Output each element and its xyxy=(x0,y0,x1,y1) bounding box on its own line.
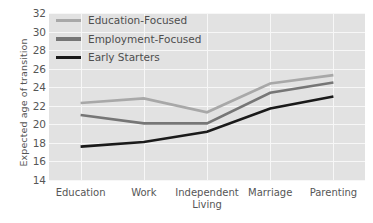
y-axis-tick: 22 xyxy=(12,101,46,111)
legend-label: Education-Focused xyxy=(88,15,187,26)
legend-color-swatch xyxy=(56,19,81,22)
y-axis-tick: 32 xyxy=(12,8,46,18)
legend-item[interactable]: Early Starters xyxy=(56,51,201,64)
x-axis-tick: Education xyxy=(56,187,106,199)
series-line xyxy=(81,75,334,112)
legend-item[interactable]: Employment-Focused xyxy=(56,33,201,46)
x-axis-tick: Work xyxy=(131,187,156,199)
legend-color-swatch xyxy=(56,56,81,59)
y-axis-tick: 24 xyxy=(12,82,46,92)
series-line xyxy=(81,97,334,147)
y-axis-tick: 16 xyxy=(12,156,46,166)
y-axis-tick: 18 xyxy=(12,138,46,148)
legend-label: Employment-Focused xyxy=(88,34,201,45)
y-axis-tick: 28 xyxy=(12,45,46,55)
x-axis-tick: Marriage xyxy=(248,187,292,199)
x-axis-tick-labels: EducationWorkIndependent LivingMarriageP… xyxy=(0,187,373,223)
x-axis-tick: Parenting xyxy=(310,187,357,199)
y-axis-tick: 30 xyxy=(12,27,46,37)
x-axis-tick: Independent Living xyxy=(175,187,238,210)
legend-color-swatch xyxy=(56,37,81,40)
y-axis-tick: 14 xyxy=(12,175,46,185)
legend-item[interactable]: Education-Focused xyxy=(56,14,201,27)
y-axis-tick: 26 xyxy=(12,64,46,74)
y-axis-tick: 20 xyxy=(12,119,46,129)
chart-legend: Education-FocusedEmployment-FocusedEarly… xyxy=(56,14,201,64)
legend-label: Early Starters xyxy=(88,52,160,63)
gridline-horizontal xyxy=(49,180,365,181)
line-chart: Expected age of transition 1416182022242… xyxy=(0,0,373,223)
